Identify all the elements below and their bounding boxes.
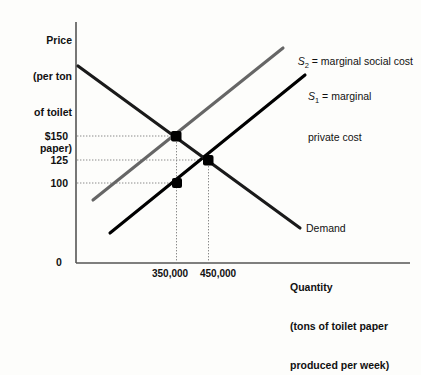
curve-s2-marginal-social-cost (93, 48, 283, 200)
curve-label-s1-symbol: S (308, 90, 315, 102)
y-axis-title-line-1: Price (0, 34, 72, 46)
x-tick-label-450000: 450,000 (200, 268, 236, 279)
origin-label: 0 (56, 256, 62, 268)
x-axis-title-sub-1: (tons of toilet paper (290, 320, 421, 333)
x-tick-label-350000: 350,000 (152, 268, 188, 279)
curve-demand (78, 66, 300, 228)
curve-label-s1-text: = marginal (319, 90, 371, 102)
curve-label-s2-symbol: S (298, 55, 305, 67)
point-market-equilibrium (203, 155, 214, 166)
y-axis-title-line-4: paper) (0, 142, 72, 154)
point-social-optimum (171, 131, 182, 142)
curve-label-s1-text-line2: private cost (308, 131, 371, 143)
y-axis-title: Price (per ton of toilet paper) (0, 10, 72, 178)
y-tick-label-125: 125 (22, 154, 68, 166)
x-axis-title-main: Quantity (290, 281, 421, 294)
x-axis-title: Quantity (tons of toilet paper produced … (290, 255, 421, 375)
y-axis-title-line-3: of toilet (0, 106, 72, 118)
y-tick-label-100: 100 (22, 177, 68, 189)
y-axis-title-line-2: (per ton (0, 70, 72, 82)
point-private-cost-at-350000 (172, 178, 182, 188)
y-tick-label-150: $150 (22, 130, 68, 142)
curve-label-s1: S1 = marginal private cost (308, 66, 371, 167)
curve-label-demand: Demand (306, 222, 346, 234)
x-axis-title-sub-2: produced per week) (290, 359, 421, 372)
